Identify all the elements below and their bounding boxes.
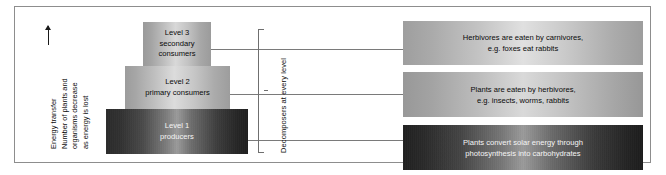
decomposers-bracket xyxy=(258,29,264,153)
decomposers-bracket-label: Decomposers at every level xyxy=(279,58,288,153)
connector-line-level-2 xyxy=(230,94,403,95)
tier3-line-1: Level 3 xyxy=(158,28,195,39)
info-box-2-line-1: Plants are eaten by herbivores, xyxy=(470,84,575,95)
up-arrow-shaft xyxy=(48,26,49,45)
tier1-line-2: producers xyxy=(160,132,194,143)
axis-caption-line-2: Number of plants and xyxy=(60,78,70,149)
info-box-producers: Plants convert solar energy through phot… xyxy=(403,125,643,170)
info-box-3-line-1: Plants convert solar energy through xyxy=(463,137,583,148)
info-box-carnivores: Herbivores are eaten by carnivores, e.g.… xyxy=(403,21,643,65)
tier3-line-2: secondary xyxy=(158,39,195,50)
info-box-1-line-2: e.g. foxes eat rabbits xyxy=(463,43,583,54)
pyramid-tier-level-1: Level 1 producers xyxy=(106,109,248,154)
tier2-line-2: primary consumers xyxy=(145,88,210,99)
decomposers-bracket-nub xyxy=(264,90,268,91)
info-box-herbivores: Plants are eaten by herbivores, e.g. ins… xyxy=(403,72,643,117)
tier1-line-1: Level 1 xyxy=(160,121,194,132)
info-box-2-line-2: e.g. insects, worms, rabbits xyxy=(470,95,575,106)
tier2-line-1: Level 2 xyxy=(145,77,210,88)
axis-caption-line-3: organisms decrease xyxy=(70,82,80,149)
axis-caption-line-1: Energy transfer xyxy=(49,98,59,149)
axis-caption-line-4: as energy is lost xyxy=(81,96,91,149)
pyramid-tier-level-3: Level 3 secondary consumers xyxy=(143,22,211,66)
diagram-frame: Energy transfer Number of plants and org… xyxy=(14,6,651,163)
info-box-3-line-2: photosynthesis into carbohydrates xyxy=(463,148,583,159)
connector-line-level-1 xyxy=(248,140,403,141)
pyramid-tier-level-2: Level 2 primary consumers xyxy=(125,66,230,109)
info-box-1-line-1: Herbivores are eaten by carnivores, xyxy=(463,32,583,43)
tier3-line-3: consumers xyxy=(158,49,195,60)
diagram-canvas: Energy transfer Number of plants and org… xyxy=(0,0,666,175)
connector-line-level-3 xyxy=(211,49,403,50)
